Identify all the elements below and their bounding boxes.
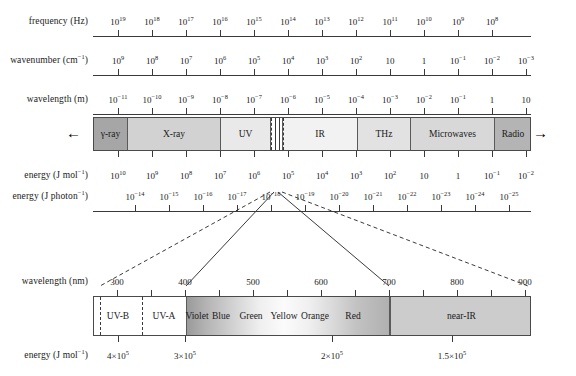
tick-energy-photon-11: 10−25: [500, 192, 519, 202]
tick-wavelength-nm-1: 400: [178, 277, 192, 287]
mark-energy-photon-0: [135, 205, 136, 211]
mark-wavenumber-0: [118, 69, 119, 75]
tick-wavenumber-3: 106: [214, 56, 226, 66]
visible-slot-dashed-0: [271, 118, 272, 150]
mark-energy-mol-3: [220, 151, 221, 157]
mark-wavenumber-8: [390, 69, 391, 75]
tick-wavelength-m-0: 10−11: [109, 95, 128, 105]
tick-energy-photon-9: 10−23: [432, 192, 451, 202]
tick-wavenumber-2: 107: [180, 56, 192, 66]
tick-energy-mol-8: 102: [384, 171, 396, 181]
axis-line-energy-photon: [93, 211, 531, 212]
mark-wavelength-m-0: [118, 108, 119, 114]
mark-energy-mol-12: [526, 151, 527, 157]
mark-energy-mol-2: [186, 151, 187, 157]
tick-wavenumber-4: 105: [248, 56, 260, 66]
mark-energy-photon-1: [169, 205, 170, 211]
mark-wavenumber-12: [526, 69, 527, 75]
mark-energy-photon-7: [373, 205, 374, 211]
mark-energy-mol-5: [288, 151, 289, 157]
tick-energy-mol-3: 107: [214, 171, 226, 181]
tick-energy-photon-3: 10−17: [228, 192, 247, 202]
tick-frequency-6: 1013: [314, 17, 329, 27]
mark-wavenumber-9: [424, 69, 425, 75]
mark-wavelength-m-12: [526, 108, 527, 114]
visible-spectrum-band: UV-BUV-Anear-IRVioletBlueGreenYellowOran…: [93, 296, 531, 336]
mark-wavenumber-2: [186, 69, 187, 75]
tick-wavelength-m-3: 10−8: [212, 95, 228, 105]
band-segment-microwaves: Microwaves: [411, 118, 495, 150]
visible-color-label-orange: Orange: [301, 297, 329, 335]
tick-wavelength-m-4: 10−7: [246, 95, 262, 105]
visible-color-label-blue: Blue: [212, 297, 230, 335]
arrow-right-icon: →: [533, 126, 548, 141]
tick-wavenumber-11: 10−2: [484, 56, 500, 66]
tick-wavenumber-6: 103: [316, 56, 328, 66]
tick-frequency-11: 108: [486, 17, 498, 27]
tick-energy-mol-11: 10−1: [484, 171, 500, 181]
band-segment-ir: IR: [283, 118, 358, 150]
band-label-thz: THz: [376, 129, 393, 139]
band-segment-gamma-ray: γ-ray: [94, 118, 128, 150]
tick-frequency-4: 1015: [246, 17, 261, 27]
tick-wavelength-nm-6: 900: [518, 277, 532, 287]
tick-wavelength-nm-4: 700: [382, 277, 396, 287]
visible-color-label-violet: Violet: [185, 297, 208, 335]
tick-energy-photon-5: 10−19: [296, 192, 315, 202]
mark-frequency-5: [288, 30, 289, 36]
uvb-dash-right: [142, 297, 143, 335]
mark-energy-photon-3: [237, 205, 238, 211]
mark-frequency-11: [492, 30, 493, 36]
tick-energy-photon-4: 10−18: [262, 192, 281, 202]
mark-energy-mol-7: [356, 151, 357, 157]
visible-slot-dashed-1: [283, 118, 284, 150]
tick-wavelength-m-9: 10−2: [416, 95, 432, 105]
mark-wavelength-m-2: [186, 108, 187, 114]
mark-wavelength-m-8: [390, 108, 391, 114]
mark-wavenumber-10: [458, 69, 459, 75]
tick-wavelength-nm-5: 800: [450, 277, 464, 287]
mark-wavenumber-1: [152, 69, 153, 75]
mark-energy-mol-vis-2: [332, 336, 333, 342]
band-segment-visible: [271, 118, 283, 150]
mark-frequency-4: [254, 30, 255, 36]
mark-energy-mol-9: [424, 151, 425, 157]
row-label-wavenumber: wavenumber (cm−1): [0, 55, 88, 65]
tick-energy-mol-9: 10: [420, 171, 429, 181]
mark-wavelength-m-9: [424, 108, 425, 114]
mark-wavenumber-11: [492, 69, 493, 75]
mark-energy-photon-9: [441, 205, 442, 211]
tick-energy-photon-0: 10−14: [126, 192, 145, 202]
tick-frequency-0: 1019: [110, 17, 125, 27]
tick-wavenumber-8: 10: [386, 56, 395, 66]
tick-energy-mol-vis-2: 2×105: [321, 351, 343, 361]
band-segment-uv: UV: [221, 118, 271, 150]
tick-wavenumber-7: 102: [350, 56, 362, 66]
row-label-wavelength-nm: wavelength (nm): [0, 276, 88, 286]
tick-wavelength-nm-2: 500: [246, 277, 260, 287]
tick-frequency-1: 1018: [144, 17, 159, 27]
visible-color-label-yellow: Yellow: [270, 297, 297, 335]
mark-energy-mol-10: [458, 151, 459, 157]
mark-wavenumber-4: [254, 69, 255, 75]
mark-frequency-6: [322, 30, 323, 36]
row-label-energy-mol: energy (J mol−1): [0, 170, 88, 180]
tick-energy-mol-6: 104: [316, 171, 328, 181]
mark-frequency-7: [356, 30, 357, 36]
mark-wavelength-m-7: [356, 108, 357, 114]
tick-wavelength-m-11: 1: [490, 95, 495, 105]
uvb-dash-left: [100, 297, 101, 335]
band-label-radio: Radio: [502, 129, 525, 139]
mark-energy-photon-4: [271, 205, 272, 211]
tick-wavelength-m-1: 10−10: [143, 95, 162, 105]
visible-segment-near-ir: near-IR: [390, 297, 531, 335]
tick-wavelength-m-7: 10−4: [348, 95, 364, 105]
tick-energy-mol-1: 109: [146, 171, 158, 181]
mark-energy-mol-8: [390, 151, 391, 157]
mark-energy-photon-6: [339, 205, 340, 211]
tick-frequency-2: 1017: [178, 17, 193, 27]
tick-frequency-7: 1012: [348, 17, 363, 27]
band-label-gamma-ray: γ-ray: [101, 129, 121, 139]
visible-color-label-red: Red: [345, 297, 360, 335]
tick-energy-photon-7: 10−21: [364, 192, 383, 202]
